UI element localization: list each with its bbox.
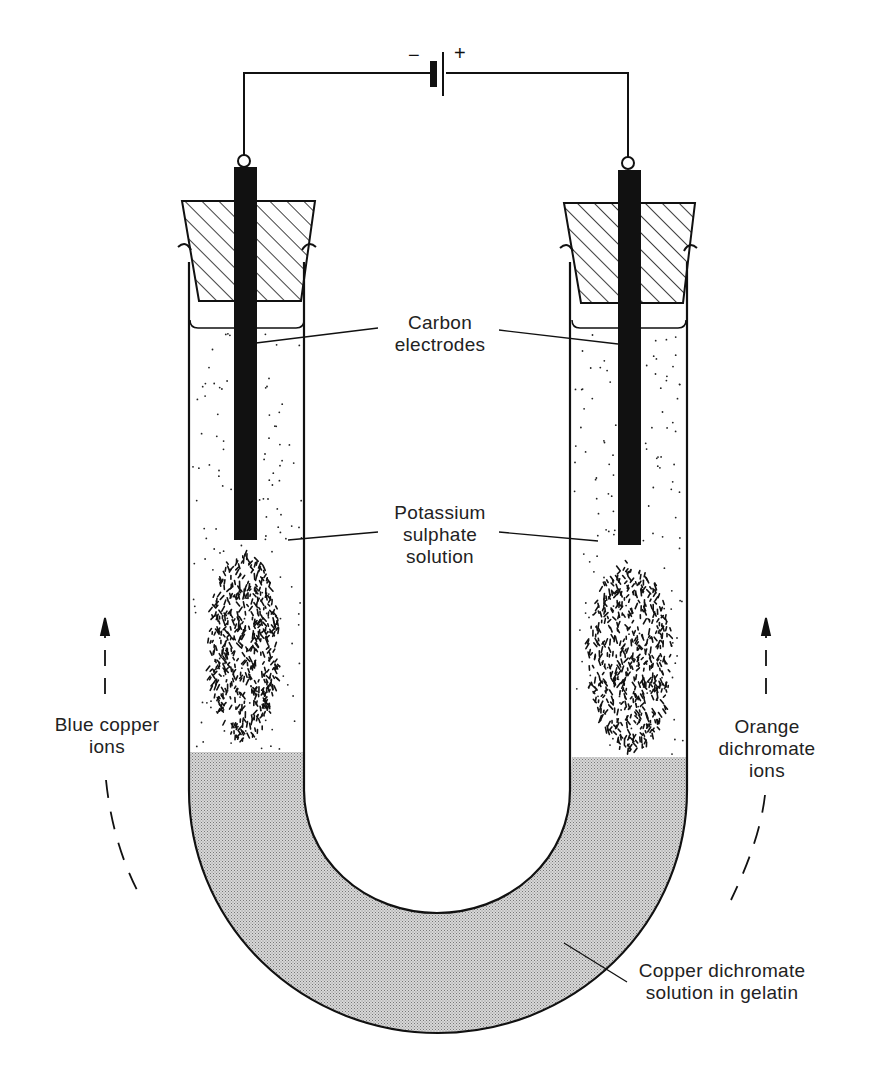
label-line: Copper dichromate — [622, 960, 822, 982]
label-line: Blue copper — [32, 714, 182, 736]
right-terminal-icon — [622, 157, 634, 169]
battery-positive-sign: + — [454, 42, 466, 65]
left-terminal-icon — [238, 155, 250, 167]
label-copper-dichromate-gelatin: Copper dichromate solution in gelatin — [622, 960, 822, 1004]
label-orange-dichromate-ions: Orange dichromate ions — [702, 716, 832, 782]
label-line: Orange — [702, 716, 832, 738]
label-potassium-sulphate-solution: Potassium sulphate solution — [370, 502, 510, 568]
copper-ion-cloud — [206, 551, 279, 742]
label-line: ions — [32, 736, 182, 758]
label-line: electrodes — [370, 334, 510, 356]
label-line: ions — [702, 760, 832, 782]
label-line: solution in gelatin — [622, 982, 822, 1004]
label-blue-copper-ions: Blue copper ions — [32, 714, 182, 758]
left-carbon-electrode — [234, 167, 257, 540]
battery-negative-sign: − — [408, 44, 420, 67]
label-line: Carbon — [370, 312, 510, 334]
label-carbon-electrodes: Carbon electrodes — [370, 312, 510, 356]
label-line: dichromate — [702, 738, 832, 760]
dichromate-ion-cloud — [585, 561, 672, 755]
battery-icon — [430, 52, 443, 96]
gel-fill — [190, 752, 686, 1032]
label-line: Potassium — [370, 502, 510, 524]
label-line: sulphate — [370, 524, 510, 546]
label-line: solution — [370, 546, 510, 568]
right-carbon-electrode — [618, 170, 641, 545]
